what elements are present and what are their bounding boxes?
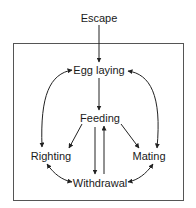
arrow-mating-withdrawal	[128, 164, 153, 182]
arrow-feeding-to-righting	[69, 124, 82, 148]
node-mating: Mating	[132, 151, 165, 162]
node-feeding: Feeding	[80, 113, 120, 124]
node-righting: Righting	[31, 151, 71, 162]
arrow-feeding-to-mating	[121, 124, 139, 148]
arrow-egg-laying-righting	[42, 70, 72, 147]
behavior-hierarchy-diagram: Escape Egg laying Feeding Righting Matin…	[0, 0, 196, 208]
node-withdrawal: Withdrawal	[73, 178, 127, 189]
node-egg-laying: Egg laying	[73, 65, 124, 76]
arrow-righting-withdrawal	[47, 164, 72, 182]
node-escape: Escape	[81, 13, 118, 24]
arrow-egg-laying-mating	[128, 71, 158, 148]
